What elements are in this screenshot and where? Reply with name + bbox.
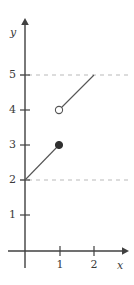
- y-axis-label: y: [10, 27, 16, 38]
- open-point-marker: [55, 106, 62, 113]
- x-tick-label-2: 2: [86, 259, 102, 270]
- y-tick-label-5: 5: [0, 69, 16, 80]
- curve-segment-lower: [25, 145, 59, 180]
- x-tick-label-1: 1: [52, 259, 68, 270]
- y-tick-label-1: 1: [0, 209, 16, 220]
- y-tick-label-4: 4: [0, 104, 16, 115]
- coordinate-plot: 5 4 3 2 1 1 2 y x: [0, 0, 134, 285]
- y-tick-label-3: 3: [0, 139, 16, 150]
- x-axis-label: x: [117, 260, 123, 271]
- plot-canvas: [0, 0, 134, 285]
- y-axis-arrow-icon: [21, 18, 29, 25]
- y-tick-label-2: 2: [0, 174, 16, 185]
- x-axis-arrow-icon: [122, 247, 129, 255]
- curve-segment-upper: [59, 75, 94, 110]
- closed-point-marker: [55, 141, 62, 148]
